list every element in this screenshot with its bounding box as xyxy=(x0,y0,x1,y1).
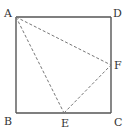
triangle-aef xyxy=(16,17,111,113)
point-labels: A D B C E F xyxy=(3,7,122,128)
label-d: D xyxy=(113,7,122,20)
label-b: B xyxy=(4,115,12,128)
label-e: E xyxy=(61,117,69,128)
square-abcd xyxy=(16,17,111,113)
label-a: A xyxy=(3,7,13,20)
dashed-ae xyxy=(16,17,64,113)
geometry-diagram: A D B C E F xyxy=(0,0,130,128)
dashed-af xyxy=(16,17,111,65)
dashed-ef xyxy=(64,65,111,113)
label-f: F xyxy=(114,59,122,72)
label-c: C xyxy=(114,116,122,128)
